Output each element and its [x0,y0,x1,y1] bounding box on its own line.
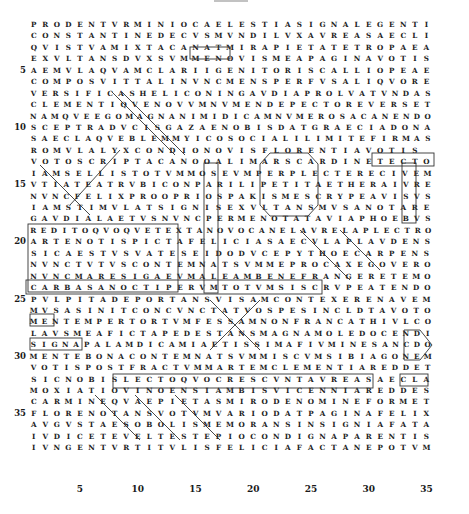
grid-letter: A [62,305,73,316]
grid-letter: A [398,202,410,213]
grid-letter: C [313,191,324,202]
grid-letter: H [346,179,357,190]
grid-letter: M [28,305,39,316]
grid-letter: L [74,145,86,156]
grid-letter: A [203,179,214,190]
grid-letter: L [351,65,363,76]
grid-letter: R [317,156,329,167]
grid-letter: A [71,339,82,350]
grid-letter: V [190,408,202,419]
grid-row: MENTEMPERTORTVMFESSAMNONFRANCATHIVLCO [28,316,433,327]
row-number: 25 [14,294,26,305]
grid-letter: L [167,419,179,430]
grid-letter: E [247,362,258,373]
grid-row: MOXIATIOVINOENSIAMBISVICENNIAREDDES [28,385,433,396]
grid-letter: N [132,30,144,41]
grid-letter: E [313,362,324,373]
grid-letter: E [72,351,83,362]
grid-letter: S [363,374,375,385]
row-letters: IAMSTIMVLATSIGNISEXVLTANSMVSANOTARE [28,202,433,213]
grid-letter: R [324,191,335,202]
grid-letter: T [335,362,346,373]
grid-letter: I [224,294,236,305]
grid-letter: A [257,225,267,236]
grid-letter: C [132,145,144,156]
grid-letter: E [398,248,410,259]
grid-letter: A [28,419,40,430]
grid-letter: S [294,19,306,30]
grid-letter: L [39,99,50,110]
grid-letter: R [148,316,159,327]
grid-letter: V [155,408,167,419]
grid-letter: A [351,431,363,442]
grid-letter: A [351,374,363,385]
grid-letter: S [282,419,294,430]
grid-letter: S [225,351,236,362]
grid-letter: I [188,339,199,350]
grid-letter: E [236,374,248,385]
grid-letter: T [70,225,80,236]
grid-letter: L [159,88,170,99]
grid-letter: E [174,282,185,293]
grid-letter: R [181,191,192,202]
grid-letter: V [105,133,116,144]
grid-letter: L [178,442,190,453]
grid-letter: L [96,168,107,179]
grid-letter: I [28,431,40,442]
grid-letter: A [178,294,190,305]
grid-letter: N [390,339,401,350]
grid-letter: I [129,271,140,282]
grid-letter: I [258,133,269,144]
grid-letter: N [398,19,410,30]
grid-row: 20ARTENOTISPICTAFELICIASAECVLAPLAVDENS [28,236,433,247]
grid-letter: L [94,191,105,202]
grid-letter: R [298,259,309,270]
grid-letter: A [363,248,375,259]
grid-letter: E [399,259,410,270]
grid-letter: V [138,213,149,224]
grid-letter: V [213,294,225,305]
grid-letter: T [388,271,399,282]
grid-letter: S [118,271,129,282]
grid-letter: V [39,191,50,202]
grid-letter: L [400,316,411,327]
grid-letter: N [317,385,329,396]
grid-letter: V [129,99,140,110]
grid-letter: L [270,30,282,41]
grid-letter: T [74,30,86,41]
grid-letter: N [181,213,192,224]
grid-letter: R [316,111,327,122]
grid-letter: L [354,236,365,247]
grid-letter: R [138,191,149,202]
grid-letter: N [351,442,363,453]
grid-letter: T [411,305,422,316]
grid-letter: M [174,168,185,179]
grid-letter: C [213,374,225,385]
grid-letter: E [201,53,213,64]
grid-letter: A [313,179,324,190]
row-letters: NAMQVEEGOMAGNANIMIDICAMNVMEROSACANENDO [28,111,433,122]
grid-letter: O [398,76,410,87]
grid-letter: A [86,65,98,76]
grid-letter: S [298,282,309,293]
grid-letter: N [51,259,62,270]
grid-letter: R [313,88,324,99]
grid-letter: G [178,202,190,213]
axis-tick: 35 [420,484,433,494]
grid-letter: T [155,431,167,442]
grid-letter: M [51,168,62,179]
grid-letter: N [156,111,167,122]
grid-letter: S [422,88,433,99]
grid-letter: P [386,42,398,53]
grid-letter: C [398,374,410,385]
grid-letter: E [351,396,363,407]
grid-letter: I [236,156,248,167]
grid-letter: S [28,248,40,259]
grid-letter: T [74,53,86,64]
grid-letter: N [409,248,421,259]
grid-letter: A [366,236,377,247]
grid-letter: A [340,442,352,453]
grid-letter: S [178,248,190,259]
grid-letter: N [28,259,39,270]
grid-letter: O [374,42,386,53]
